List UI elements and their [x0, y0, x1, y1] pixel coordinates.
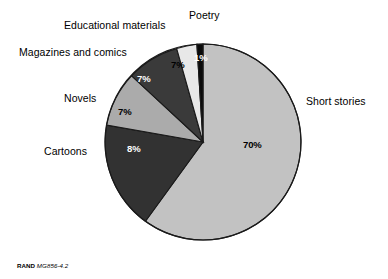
category-label-cartoons: Cartoons	[44, 145, 87, 157]
category-label-short-stories: Short stories	[306, 95, 366, 107]
footer-figure-code: MG856-4.2	[37, 262, 68, 269]
category-label-poetry: Poetry	[189, 9, 220, 21]
slice-value-cartoons: 8%	[127, 143, 141, 154]
category-label-educational-materials: Educational materials	[64, 19, 165, 31]
pie-chart-figure: 70% 8% 7% 7% 7% 1% Short stories Cartoon…	[0, 0, 388, 279]
slice-value-novels: 7%	[118, 106, 132, 117]
pie-chart-area: 70% 8% 7% 7% 7% 1%	[105, 44, 301, 240]
category-label-magazines-and-comics: Magazines and comics	[19, 46, 127, 58]
slice-value-magazines-and-comics: 7%	[137, 73, 151, 84]
figure-footer: RAND MG856-4.2	[17, 262, 68, 269]
footer-organization: RAND	[17, 262, 35, 269]
slice-value-short-stories: 70%	[243, 139, 262, 150]
slice-value-poetry: 1%	[194, 52, 208, 63]
slice-value-educational-materials: 7%	[171, 59, 185, 70]
pie-svg	[105, 44, 301, 240]
category-label-novels: Novels	[64, 92, 96, 104]
